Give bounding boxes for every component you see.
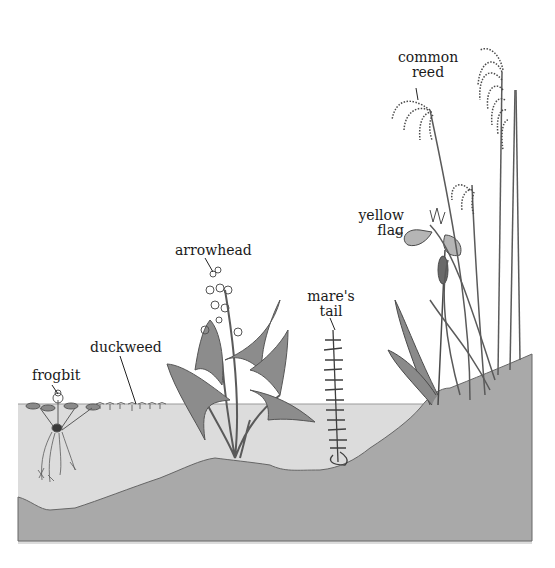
common-reed-pointer-line	[416, 88, 418, 100]
label-yellow-flag-line2: flag	[356, 223, 404, 238]
label-common-reed: common reed	[398, 50, 458, 80]
common-reed-plant	[430, 72, 520, 400]
label-mares-tail: mare's tail	[306, 289, 356, 319]
pond-cross-section-diagram	[0, 0, 555, 568]
label-frogbit: frogbit	[32, 368, 80, 383]
label-yellow-flag: yellow flag	[356, 208, 404, 238]
label-mares-tail-line2: tail	[306, 304, 356, 319]
label-common-reed-line1: common	[398, 50, 458, 65]
label-yellow-flag-line1: yellow	[356, 208, 404, 223]
duckweed-pointer-line	[120, 356, 136, 404]
arrowhead-pointer-line	[205, 258, 213, 272]
mares-tail-pointer-line	[330, 318, 335, 330]
label-mares-tail-line1: mare's	[306, 289, 356, 304]
label-arrowhead: arrowhead	[175, 243, 252, 258]
label-duckweed: duckweed	[90, 340, 162, 355]
label-common-reed-line2: reed	[398, 65, 458, 80]
